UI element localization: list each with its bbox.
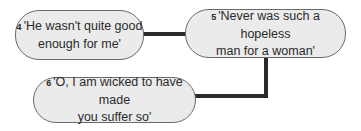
node-4: 4'He wasn't quite good enough for me' [15,10,144,60]
node-6-number: 6 [46,78,51,88]
node-4-text: 4'He wasn't quite good enough for me' [17,18,143,53]
node-5-line2: man for a woman' [186,43,345,60]
node-6-line1: 'O, I am wicked to have made [53,75,183,107]
node-6-line2: you suffer so' [34,109,195,126]
node-5: 5'Never was such a hopeless man for a wo… [185,9,346,58]
node-4-line2: enough for me' [17,36,143,53]
connector-5-to-6-vertical [264,57,268,98]
node-4-line1: 'He wasn't quite good [24,19,143,33]
node-5-text: 5'Never was such a hopeless man for a wo… [186,8,345,60]
connector-5-to-6-horizontal [194,94,268,98]
node-5-number: 5 [211,12,216,22]
node-6: 6'O, I am wicked to have made you suffer… [33,77,196,123]
connector-4-to-5 [142,32,187,36]
node-5-line1: 'Never was such a hopeless [218,9,320,41]
node-6-text: 6'O, I am wicked to have made you suffer… [34,74,195,126]
node-4-number: 4 [17,22,22,32]
